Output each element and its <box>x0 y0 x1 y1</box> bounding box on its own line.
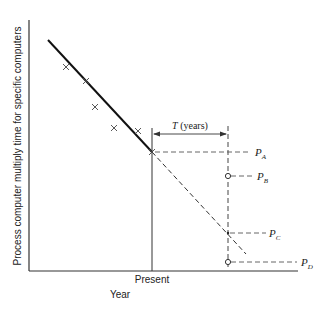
pb-marker <box>225 173 230 178</box>
x-marker <box>92 104 98 110</box>
point-d-label: PD <box>300 256 313 271</box>
point-b-label: PB <box>256 170 269 185</box>
interval-label: T (years) <box>172 120 208 132</box>
historical-trend-line <box>48 40 152 152</box>
x-marker <box>135 128 141 134</box>
pc-marker <box>227 232 229 234</box>
pd-marker <box>225 259 230 264</box>
x-marker <box>111 125 117 131</box>
x-marker <box>63 64 69 70</box>
projection-diagram: Process computer multiply time for speci… <box>0 0 329 309</box>
x-marker <box>83 78 89 84</box>
point-a-label: PA <box>254 146 267 161</box>
present-label: Present <box>135 274 170 285</box>
extrapolated-trend-line <box>152 152 246 254</box>
point-c-label: PC <box>268 227 281 242</box>
y-axis-label: Process computer multiply time for speci… <box>12 27 23 266</box>
x-axis-label: Year <box>110 289 131 300</box>
arrowhead-right-icon <box>220 132 227 137</box>
arrowhead-left-icon <box>153 132 160 137</box>
